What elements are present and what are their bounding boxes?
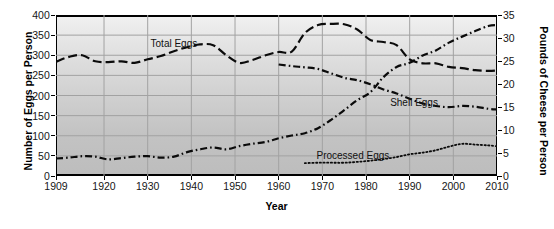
axis-tick-mark: [56, 176, 57, 180]
axis-tick-mark: [498, 153, 502, 154]
axis-tick-mark: [147, 176, 148, 180]
x-axis-title: Year: [56, 200, 497, 212]
y-axis-left-tick-label: 200: [32, 90, 50, 102]
x-axis-tick-label: 2000: [442, 180, 465, 192]
x-axis-ticks: 1909192019301940195019601970198019902000…: [56, 180, 497, 194]
y-axis-right-tick-label: 30: [503, 32, 515, 44]
axis-tick-mark: [191, 176, 192, 180]
axis-tick-mark: [498, 84, 502, 85]
axis-tick-mark: [51, 55, 55, 56]
y-axis-left-tick-label: 50: [38, 150, 50, 162]
y-axis-right-tick-label: 20: [503, 78, 515, 90]
plot-area: Total EggsShell EggsTotal CheeseProcesse…: [56, 15, 497, 176]
axis-tick-mark: [235, 176, 236, 180]
axis-tick-mark: [51, 135, 55, 136]
y-axis-left-tick-label: 150: [32, 110, 50, 122]
y-axis-right-title: Pounds of Cheese per Person: [538, 21, 550, 181]
axis-tick-mark: [51, 35, 55, 36]
axis-tick-mark: [498, 61, 502, 62]
y-axis-right-tick-label: 10: [503, 124, 515, 136]
axis-tick-mark: [366, 176, 367, 180]
axis-tick-mark: [498, 130, 502, 131]
y-axis-left-tick-label: 350: [32, 29, 50, 41]
series-label-processed-eggs: Processed Eggs: [316, 150, 389, 161]
y-axis-right-ticks: 05101520253035: [503, 15, 529, 176]
axis-tick-mark: [498, 176, 502, 177]
x-axis-tick-label: 1909: [44, 180, 67, 192]
axis-tick-mark: [322, 176, 323, 180]
y-axis-right-tick-label: 15: [503, 101, 515, 113]
series-line-shell-eggs: [279, 65, 497, 110]
axis-tick-mark: [51, 155, 55, 156]
y-axis-left-tick-label: 100: [32, 130, 50, 142]
series-line-total-cheese: [56, 25, 497, 159]
x-axis-tick-label: 1990: [398, 180, 421, 192]
y-axis-left-tick-label: 300: [32, 49, 50, 61]
y-axis-right-tick-label: 25: [503, 55, 515, 67]
y-axis-right-tick-label: 35: [503, 9, 515, 21]
axis-tick-mark: [278, 176, 279, 180]
y-axis-left-tick-label: 400: [32, 9, 50, 21]
axis-tick-mark: [497, 176, 498, 180]
x-axis-tick-label: 1960: [267, 180, 290, 192]
axis-tick-mark: [498, 15, 502, 16]
x-axis-tick-label: 1920: [92, 180, 115, 192]
axis-tick-mark: [51, 176, 55, 177]
y-axis-left-ticks: 050100150200250300350400: [0, 15, 50, 176]
series-label-shell-eggs: Shell Eggs: [390, 96, 438, 107]
y-axis-left-tick-label: 250: [32, 69, 50, 81]
series-label-total-eggs: Total Eggs: [151, 38, 198, 49]
axis-tick-mark: [104, 176, 105, 180]
axis-tick-mark: [409, 176, 410, 180]
x-axis-tick-label: 1940: [180, 180, 203, 192]
axis-tick-mark: [498, 38, 502, 39]
axis-tick-mark: [51, 95, 55, 96]
y-axis-right-tick-label: 5: [503, 147, 509, 159]
x-axis-tick-label: 1930: [136, 180, 159, 192]
chart-figure: Number of Eggs per Person Pounds of Chee…: [0, 0, 554, 229]
axis-tick-mark: [51, 15, 55, 16]
axis-tick-mark: [453, 176, 454, 180]
axis-tick-mark: [51, 115, 55, 116]
x-axis-tick-label: 2010: [485, 180, 508, 192]
x-axis-tick-label: 1970: [311, 180, 334, 192]
axis-tick-mark: [498, 107, 502, 108]
x-axis-tick-label: 1980: [354, 180, 377, 192]
series-line-total-eggs: [56, 24, 497, 71]
axis-tick-mark: [51, 75, 55, 76]
x-axis-tick-label: 1950: [223, 180, 246, 192]
